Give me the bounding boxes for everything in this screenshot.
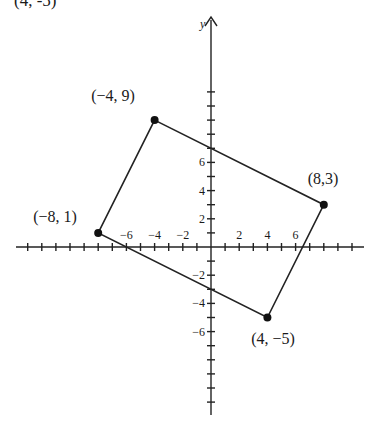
vertex-dot	[151, 116, 159, 124]
y-tick-label: 6	[199, 155, 205, 169]
y-tick-label: 4	[199, 184, 205, 198]
y-tick-label: −6	[192, 325, 205, 339]
x-tick-labels: −6−4−2246	[120, 228, 299, 242]
vertex-label: (8,3)	[308, 170, 339, 188]
x-tick-label: −6	[120, 228, 133, 242]
x-tick-label: 2	[236, 228, 242, 242]
vertex-label: (−8, 1)	[33, 208, 77, 226]
cutoff-label: (4, -5)	[14, 0, 56, 10]
vertex-dot	[320, 201, 328, 209]
x-tick-label: −2	[176, 228, 189, 242]
y-tick-label: 2	[199, 212, 205, 226]
x-tick-label: 6	[293, 228, 299, 242]
x-tick-label: 4	[264, 228, 270, 242]
vertex-labels: (−4, 9)(8,3)(4, −5)(−8, 1)	[33, 87, 338, 348]
y-axis-label: y	[199, 17, 206, 31]
coordinate-plane: (4, -5) y −6−4−2246 642−2−4−6 (−4, 9)(8,…	[0, 0, 367, 422]
x-tick-label: −4	[148, 228, 161, 242]
vertex-dot	[263, 314, 271, 322]
vertex-dot	[94, 229, 102, 237]
y-tick-label: −4	[192, 296, 205, 310]
vertex-label: (−4, 9)	[91, 87, 135, 105]
vertex-label: (4, −5)	[251, 330, 295, 348]
